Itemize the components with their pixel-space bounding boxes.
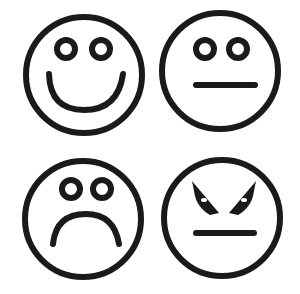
sad-face-icon xyxy=(25,161,141,277)
neutral-face-icon xyxy=(162,13,278,129)
emoticons-canvas xyxy=(0,0,300,294)
happy-face-icon xyxy=(26,17,142,133)
angry-face-icon xyxy=(164,160,280,276)
